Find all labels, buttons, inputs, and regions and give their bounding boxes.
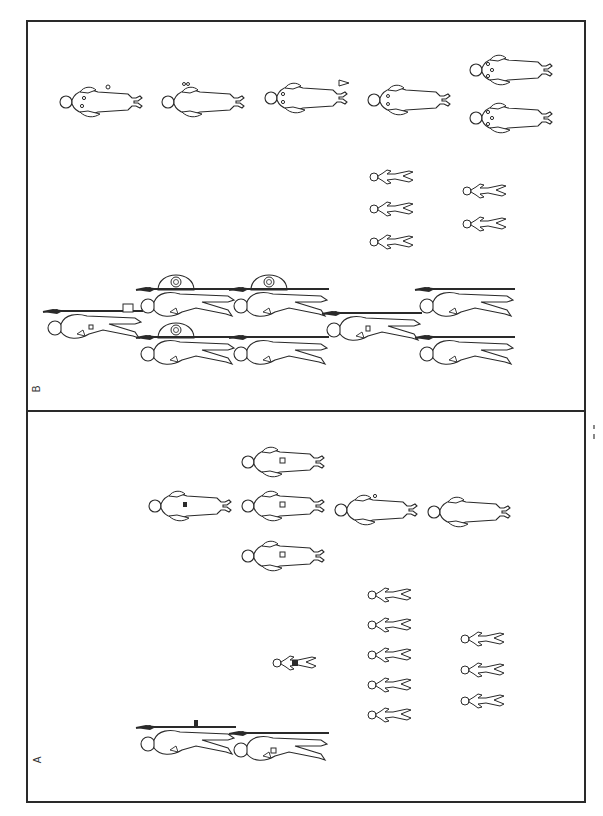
robed-figure [240,538,332,574]
child-figure [367,586,413,604]
warrior-figure [322,306,426,346]
panel-divider [26,410,584,412]
panel-label-a: A [33,757,43,764]
child-figure [367,616,413,634]
robed-figure [147,488,239,524]
robed-figure [58,84,150,120]
child-figure [367,646,413,664]
child-figure [460,661,506,679]
robed-figure [263,80,355,116]
child-figure [462,215,508,233]
child-figure [369,200,415,218]
child-figure [369,233,415,251]
warrior-figure-with-shield [136,330,240,370]
scan-mark [593,434,595,439]
warrior-figure [229,726,333,766]
robed-figure [468,100,560,136]
robed-figure [240,444,332,480]
warrior-figure [43,304,147,344]
robed-figure [333,492,425,528]
child-figure [462,182,508,200]
warrior-figure [415,330,519,370]
robed-figure [240,488,332,524]
warrior-figure-with-shield [136,282,240,322]
warrior-figure [136,720,240,760]
warrior-figure [415,282,519,322]
robed-figure [366,82,458,118]
child-figure [367,676,413,694]
child-figure [369,168,415,186]
robed-figure [426,494,518,530]
warrior-figure-with-shield [229,282,333,322]
robed-figure [160,84,252,120]
child-figure [460,692,506,710]
scan-mark [593,425,595,429]
warrior-figure [229,330,333,370]
robed-figure [468,52,560,88]
panel-label-b: B [32,386,42,393]
child-figure [272,654,318,672]
child-figure [460,630,506,648]
child-figure [367,706,413,724]
